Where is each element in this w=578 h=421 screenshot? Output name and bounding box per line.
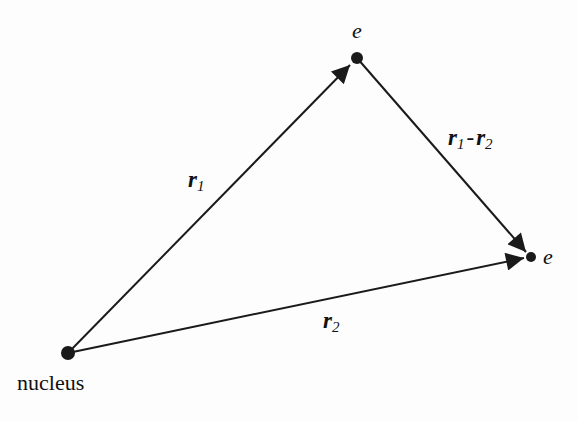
electron2-dot [526, 252, 536, 262]
electron2-label: e [543, 244, 553, 270]
electron1-dot [351, 52, 363, 64]
diagram-canvas: e e nucleus r1 r1-r2 r2 [0, 0, 578, 421]
r2-label: r2 [323, 308, 339, 336]
vector-r1-minus-r2-arrow [357, 58, 526, 252]
vector-r2-arrow [68, 258, 524, 353]
nucleus-dot [61, 346, 75, 360]
r1-label: r1 [188, 167, 204, 195]
r1-minus-r2-label: r1-r2 [448, 125, 493, 153]
vector-diagram [0, 0, 578, 421]
electron1-label: e [352, 18, 362, 44]
vector-r1-arrow [68, 65, 350, 353]
nucleus-label: nucleus [17, 370, 84, 396]
